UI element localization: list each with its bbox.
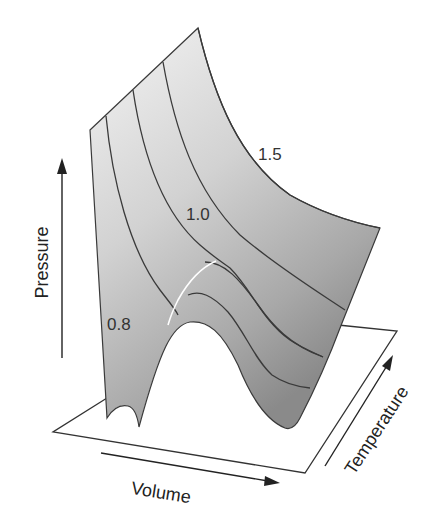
isotherm-label-0-8: 0.8	[107, 315, 131, 335]
pressure-axis-label: Pressure	[32, 223, 53, 303]
isotherm-label-1-5: 1.5	[258, 145, 282, 165]
isotherm-label-1-0: 1.0	[186, 205, 210, 225]
pvt-surface	[90, 28, 380, 429]
pressure-axis-arrow	[57, 158, 67, 358]
volume-axis-arrow	[101, 453, 280, 486]
pvt-diagram: Pressure Volume Temperature 1.5 1.0 0.8	[0, 0, 432, 525]
